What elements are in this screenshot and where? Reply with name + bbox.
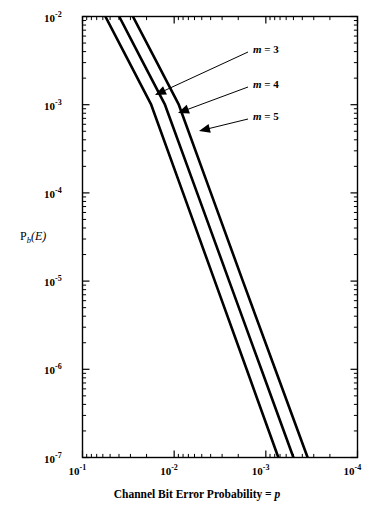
y-tick-label-2: 10-4 [44,187,62,200]
tick-marks [83,17,358,458]
axes-box [83,17,358,458]
arrow-head-2 [199,124,211,133]
annotation-label-m-3: m = 3 [253,44,279,55]
x-tick-label-2: 10-3 [252,464,270,477]
curve-m-5 [133,17,308,458]
y-tick-label-1: 10-3 [44,99,62,112]
arrow-line-2 [208,119,248,129]
arrow-line-1 [186,87,248,110]
x-tick-label-1: 10-2 [160,464,178,477]
arrow-line-0 [163,52,248,91]
y-tick-label-4: 10-6 [44,363,62,376]
plot-canvas [0,0,382,518]
y-tick-label-0: 10-2 [44,11,62,24]
x-tick-label-3: 10-4 [344,464,362,477]
annotation-label-m-5: m = 5 [253,111,279,122]
y-tick-label-3: 10-5 [44,275,62,288]
annotation-label-m-4: m = 4 [253,79,279,90]
annotation-arrows [155,52,248,133]
figure-log-log-plot: 10-210-310-410-510-610-710-110-210-310-4… [0,0,382,518]
y-axis-title: Pb(E) [20,230,46,245]
plot-frame [83,17,358,458]
x-tick-label-0: 10-1 [69,464,87,477]
x-axis-title: Channel Bit Error Probability = p [6,489,382,501]
y-tick-label-5: 10-7 [44,452,62,465]
